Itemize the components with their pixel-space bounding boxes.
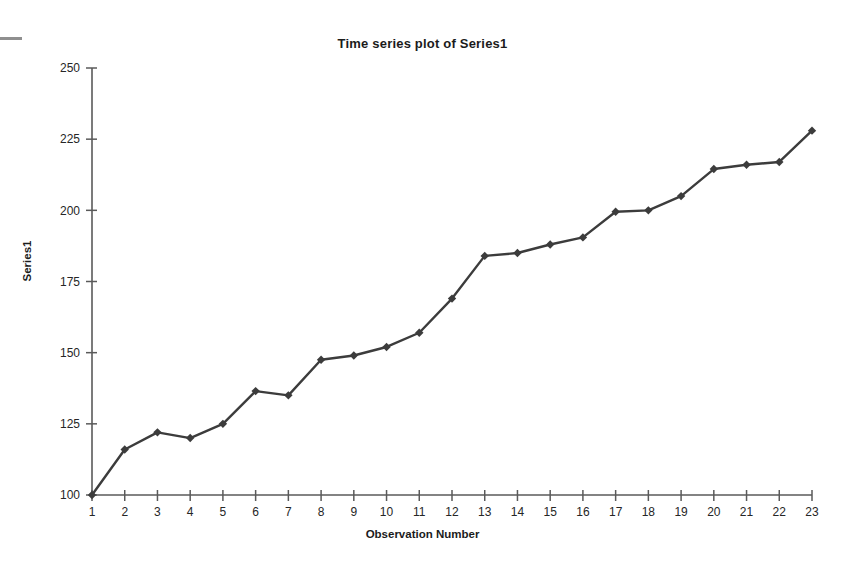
- x-tick-label: 20: [707, 505, 721, 519]
- x-tick-label: 12: [445, 505, 459, 519]
- x-tick-label: 9: [350, 505, 357, 519]
- y-tick-label: 150: [60, 346, 80, 360]
- data-point-marker: [546, 240, 554, 248]
- time-series-chart: Time series plot of Series1 Series1 Obse…: [0, 0, 845, 566]
- y-tick-label: 175: [60, 275, 80, 289]
- x-tick-label: 16: [576, 505, 590, 519]
- x-tick-label: 11: [413, 505, 426, 519]
- y-tick-label: 200: [60, 204, 80, 218]
- x-tick-label: 18: [642, 505, 656, 519]
- y-tick-label: 225: [60, 132, 80, 146]
- x-tick-label: 8: [318, 505, 325, 519]
- data-point-marker: [186, 434, 194, 442]
- x-tick-label: 1: [89, 505, 96, 519]
- x-tick-label: 6: [252, 505, 259, 519]
- y-tick-label: 250: [60, 61, 80, 75]
- data-point-marker: [513, 249, 521, 257]
- x-tick-label: 10: [380, 505, 394, 519]
- y-tick-label: 100: [60, 488, 80, 502]
- data-point-marker: [644, 206, 652, 214]
- series-markers: [88, 126, 816, 499]
- data-point-marker: [382, 343, 390, 351]
- x-tick-label: 7: [285, 505, 292, 519]
- x-tick-label: 2: [121, 505, 128, 519]
- x-tick-label: 4: [187, 505, 194, 519]
- x-tick-label: 5: [220, 505, 227, 519]
- x-tick-label: 15: [544, 505, 558, 519]
- x-tick-label: 13: [478, 505, 492, 519]
- data-point-marker: [350, 351, 358, 359]
- y-tick-label: 125: [60, 417, 80, 431]
- series-line: [92, 131, 812, 495]
- plot-area: 100125150175200225250 123456789101112131…: [0, 0, 845, 566]
- data-point-marker: [742, 161, 750, 169]
- x-tick-label: 21: [740, 505, 754, 519]
- data-point-marker: [153, 428, 161, 436]
- x-tick-label: 19: [674, 505, 688, 519]
- x-tick-label: 3: [154, 505, 161, 519]
- x-tick-label: 14: [511, 505, 525, 519]
- x-tick-label: 22: [773, 505, 787, 519]
- x-tick-label: 17: [609, 505, 623, 519]
- x-tick-label: 23: [805, 505, 819, 519]
